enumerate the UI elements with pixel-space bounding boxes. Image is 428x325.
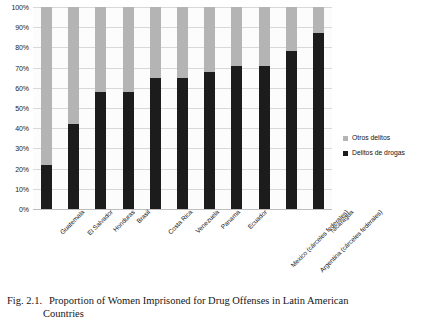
caption-text-line1: Proportion of Women Imprisoned for Drug … bbox=[49, 295, 348, 306]
bar-segment-delitos-de-drogas bbox=[313, 33, 324, 209]
bar-segment-delitos-de-drogas bbox=[259, 66, 270, 209]
bar-segment-delitos-de-drogas bbox=[41, 165, 52, 209]
bar-segment-delitos-de-drogas bbox=[286, 51, 297, 209]
bar-column bbox=[286, 7, 297, 209]
y-axis-tick-label: 40% bbox=[15, 125, 29, 132]
x-axis-tick-label: Guatemala bbox=[59, 209, 86, 236]
legend-swatch-icon bbox=[343, 151, 348, 156]
bar-column bbox=[41, 7, 52, 209]
y-axis: 0%10%20%30%40%50%60%70%80%90%100% bbox=[0, 0, 33, 209]
figure-container: 0%10%20%30%40%50%60%70%80%90%100% Guatem… bbox=[0, 0, 428, 325]
bar-segment-otros-delitos bbox=[41, 7, 52, 165]
bar-segment-otros-delitos bbox=[95, 7, 106, 92]
legend-label: Otros delitos bbox=[352, 135, 390, 142]
legend-swatch-icon bbox=[343, 136, 348, 141]
x-axis-tick-label: Panama bbox=[220, 209, 242, 231]
bar-segment-delitos-de-drogas bbox=[123, 92, 134, 209]
figure-caption: Fig. 2.1.Proportion of Women Imprisoned … bbox=[7, 294, 421, 307]
y-axis-tick-label: 10% bbox=[15, 185, 29, 192]
x-axis-tick-label: Costa Rica bbox=[167, 209, 194, 236]
x-axis-tick-label: Ecuador bbox=[247, 209, 268, 230]
bar-column bbox=[259, 7, 270, 209]
y-axis-tick-label: 20% bbox=[15, 165, 29, 172]
x-axis-tick-label: Honduras bbox=[112, 209, 136, 233]
bar-column bbox=[313, 7, 324, 209]
x-axis-tick-label: El Salvador bbox=[86, 209, 114, 237]
legend-label: Delitos de drogas bbox=[352, 150, 405, 157]
bar-segment-otros-delitos bbox=[259, 7, 270, 66]
bar-segment-otros-delitos bbox=[150, 7, 161, 78]
bar-column bbox=[150, 7, 161, 209]
legend-item: Delitos de drogas bbox=[343, 149, 428, 158]
figure-caption-line2: Countries bbox=[43, 307, 423, 324]
bar-column bbox=[95, 7, 106, 209]
figure-number: Fig. 2.1. bbox=[7, 295, 42, 306]
bar-segment-delitos-de-drogas bbox=[150, 78, 161, 209]
bar-column bbox=[177, 7, 188, 209]
legend-item: Otros delitos bbox=[343, 134, 428, 143]
y-axis-tick-label: 100% bbox=[11, 4, 29, 11]
bars-group bbox=[33, 7, 332, 209]
bar-column bbox=[68, 7, 79, 209]
bar-segment-otros-delitos bbox=[204, 7, 215, 72]
y-axis-tick-label: 60% bbox=[15, 84, 29, 91]
y-axis-tick-label: 90% bbox=[15, 24, 29, 31]
chart-legend: Otros delitosDelitos de drogas bbox=[343, 134, 428, 164]
y-axis-tick-label: 30% bbox=[15, 145, 29, 152]
x-axis-tick-label: Brasil bbox=[136, 209, 152, 225]
x-axis-tick-label: Argentina (cárceles federales) bbox=[319, 209, 384, 274]
bar-column bbox=[123, 7, 134, 209]
x-axis: GuatemalaEl SalvadorHondurasBrasilCosta … bbox=[33, 209, 332, 289]
y-axis-tick-label: 80% bbox=[15, 44, 29, 51]
bar-segment-otros-delitos bbox=[286, 7, 297, 51]
y-axis-tick-label: 50% bbox=[15, 105, 29, 112]
bar-segment-delitos-de-drogas bbox=[204, 72, 215, 209]
bar-segment-otros-delitos bbox=[177, 7, 188, 78]
bar-segment-delitos-de-drogas bbox=[177, 78, 188, 209]
bar-segment-otros-delitos bbox=[123, 7, 134, 92]
y-axis-tick-label: 70% bbox=[15, 64, 29, 71]
bar-segment-delitos-de-drogas bbox=[95, 92, 106, 209]
x-axis-tick-label: Venezuela bbox=[194, 209, 220, 235]
bar-segment-delitos-de-drogas bbox=[68, 124, 79, 209]
bar-column bbox=[231, 7, 242, 209]
bar-segment-delitos-de-drogas bbox=[231, 66, 242, 209]
bar-segment-otros-delitos bbox=[313, 7, 324, 33]
bar-column bbox=[204, 7, 215, 209]
bar-segment-otros-delitos bbox=[231, 7, 242, 66]
y-axis-tick-label: 0% bbox=[19, 206, 29, 213]
bar-segment-otros-delitos bbox=[68, 7, 79, 124]
